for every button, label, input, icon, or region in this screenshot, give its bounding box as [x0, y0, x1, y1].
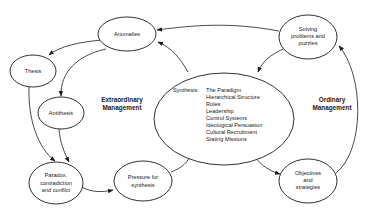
- node-solving-problems: Solving problems and puzzles: [279, 15, 337, 59]
- management-cycle-diagram: Anomalies Thesis Antithesis Paradox, con…: [0, 0, 376, 218]
- node-label-line-2: contradiction: [40, 180, 72, 186]
- synthesis-item: The Paradigm: [206, 87, 241, 93]
- synthesis-prefix: Synthesis:: [173, 87, 199, 93]
- edge-synthesis-to-anomalies: [158, 42, 188, 72]
- synthesis-item: Control Systems: [206, 115, 247, 121]
- region-label-ordinary-management: Ordinary Management: [312, 96, 352, 112]
- node-paradox: Paradox, contradiction and conflict: [29, 162, 83, 204]
- node-label-line-1: Objectives: [295, 170, 321, 176]
- synthesis-item: Ideological Persuasion: [206, 122, 262, 128]
- node-label-line-3: and conflict: [42, 187, 71, 193]
- node-label-line-1: Pressure for: [128, 174, 159, 180]
- node-synthesis: Synthesis: The Paradigm Hierarchical Str…: [154, 73, 294, 165]
- node-label-line-1: Solving: [299, 26, 317, 32]
- edge-paradox-to-pressure: [82, 187, 113, 192]
- edge-antithesis-to-paradox: [59, 129, 69, 162]
- node-thesis: Thesis: [10, 55, 56, 87]
- node-label-line-2: synthesis: [131, 182, 155, 188]
- edge-solving-to-anomalies: [157, 25, 279, 31]
- synthesis-item: Leadership: [206, 108, 234, 114]
- node-label: Antithesis: [49, 110, 73, 116]
- node-label-line-3: strategies: [296, 184, 320, 190]
- node-label: Thesis: [25, 68, 42, 74]
- node-label-line-2: and: [303, 177, 312, 183]
- node-anomalies: Anomalies: [98, 17, 156, 51]
- node-pressure-for-synthesis: Pressure for synthesis: [114, 161, 172, 201]
- node-objectives-strategies: Objectives and strategies: [279, 159, 337, 203]
- synthesis-item: Hierarchical Structure: [206, 94, 260, 100]
- region-label-extraordinary-management: Extraordinary Management: [101, 96, 143, 112]
- region-label-line-1: Extraordinary: [101, 96, 143, 104]
- node-label-line-3: puzzles: [299, 40, 318, 46]
- node-antithesis: Antithesis: [38, 97, 84, 129]
- region-label-line-2: Management: [312, 104, 352, 112]
- synthesis-item: Cultural Recruitment: [206, 129, 257, 135]
- node-label-line-1: Paradox,: [45, 172, 68, 178]
- node-label-line-2: problems and: [291, 33, 325, 39]
- edge-solving-to-synthesis: [258, 49, 283, 72]
- synthesis-item: Roles: [206, 101, 221, 107]
- region-label-line-1: Ordinary: [319, 96, 346, 104]
- synthesis-item: Stating Missions: [206, 136, 247, 142]
- node-label: Anomalies: [114, 31, 140, 37]
- region-label-line-2: Management: [102, 104, 142, 112]
- edge-anomalies-to-antithesis: [61, 49, 106, 96]
